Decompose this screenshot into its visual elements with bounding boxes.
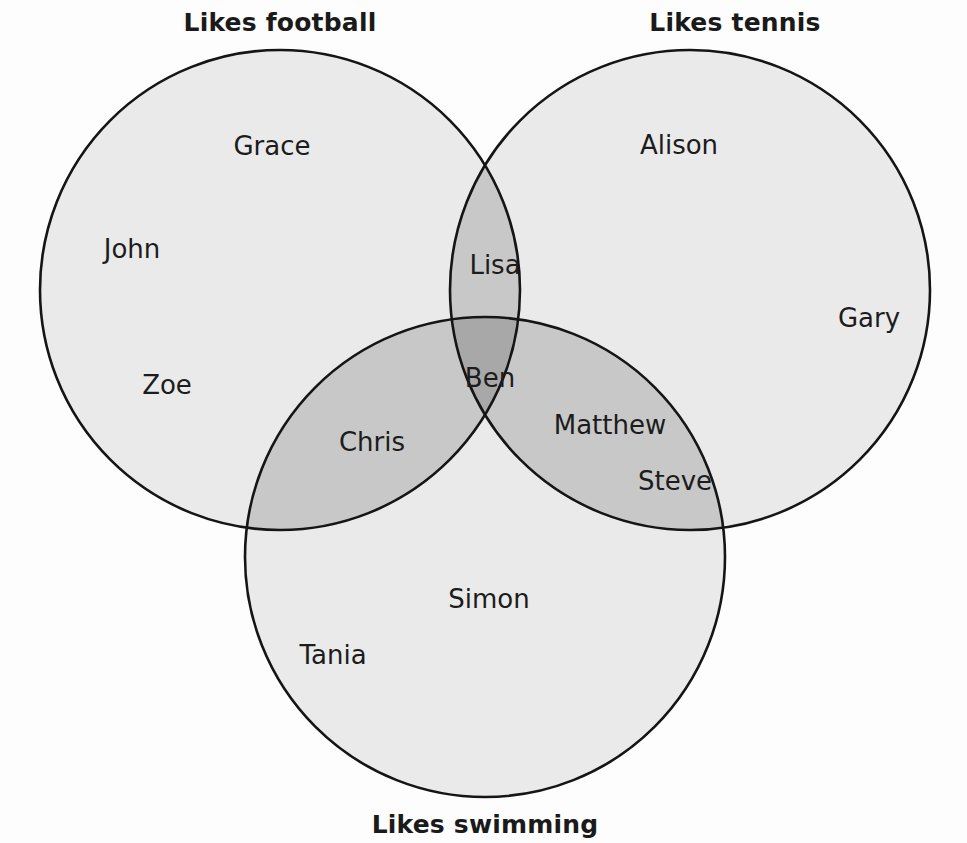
- member-label-john: John: [102, 234, 161, 264]
- region-football-swimming: Chris: [339, 427, 405, 457]
- member-label-ben: Ben: [465, 363, 515, 393]
- venn-diagram-page: Likes football Likes tennis Likes swimmi…: [0, 0, 967, 843]
- member-label-zoe: Zoe: [142, 370, 192, 400]
- venn-diagram-canvas: Likes football Likes tennis Likes swimmi…: [0, 0, 967, 843]
- member-label-simon: Simon: [448, 584, 529, 614]
- member-label-grace: Grace: [233, 131, 310, 161]
- region-all-three: Ben: [465, 363, 515, 393]
- member-label-tania: Tania: [298, 640, 366, 670]
- title-likes-swimming: Likes swimming: [372, 810, 599, 839]
- region-football-tennis: Lisa: [469, 250, 520, 280]
- title-likes-tennis: Likes tennis: [649, 8, 820, 37]
- title-likes-football: Likes football: [184, 8, 377, 37]
- member-label-chris: Chris: [339, 427, 405, 457]
- member-label-steve: Steve: [638, 466, 712, 496]
- set-fills-single: [40, 50, 930, 797]
- member-label-lisa: Lisa: [469, 250, 520, 280]
- member-label-gary: Gary: [838, 303, 900, 333]
- member-label-matthew: Matthew: [554, 410, 667, 440]
- member-label-alison: Alison: [640, 130, 718, 160]
